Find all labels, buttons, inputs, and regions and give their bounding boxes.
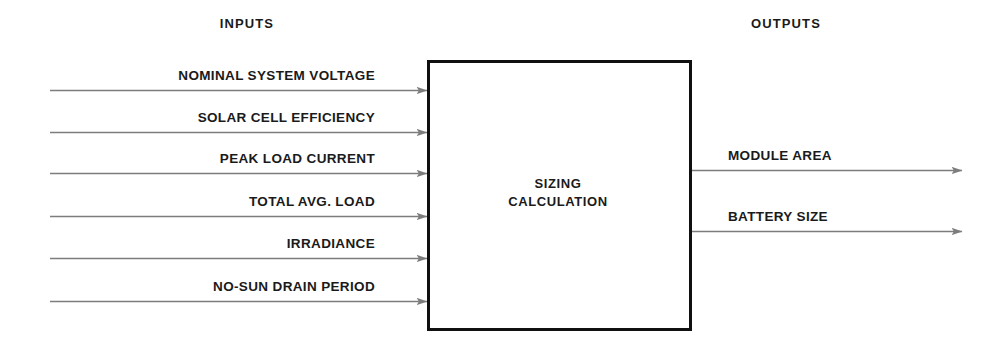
- output-label-module-area: MODULE AREA: [728, 149, 832, 163]
- input-label-peak-load-current: PEAK LOAD CURRENT: [220, 152, 375, 166]
- input-label-nominal-system-voltage: NOMINAL SYSTEM VOLTAGE: [178, 69, 375, 83]
- process-box-label-line1: SIZING: [535, 176, 582, 191]
- input-label-no-sun-drain-period: NO-SUN DRAIN PERIOD: [213, 280, 375, 294]
- process-box-label-line2: CALCULATION: [508, 194, 608, 209]
- input-label-irradiance: IRRADIANCE: [287, 237, 375, 251]
- inputs-column-header: INPUTS: [220, 17, 274, 30]
- diagram-vector-layer: [0, 0, 1002, 358]
- outputs-column-header: OUTPUTS: [751, 17, 821, 30]
- input-label-total-avg-load: TOTAL AVG. LOAD: [249, 195, 375, 209]
- output-label-battery-size: BATTERY SIZE: [728, 210, 828, 224]
- block-diagram-canvas: INPUTS OUTPUTS SIZING CALCULATION NOMINA…: [0, 0, 1002, 358]
- input-label-solar-cell-efficiency: SOLAR CELL EFFICIENCY: [198, 111, 375, 125]
- process-box-label: SIZING CALCULATION: [508, 175, 608, 211]
